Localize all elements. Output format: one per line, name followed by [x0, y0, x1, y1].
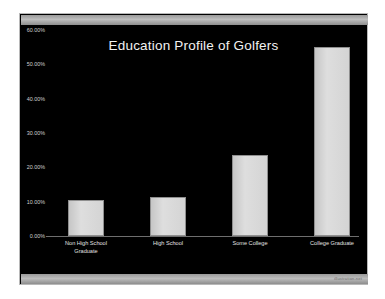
slide-frame: Education Profile of Golfers 60.00% 50.0… [19, 13, 368, 285]
x-tick-label-high-school: High School [125, 240, 211, 248]
x-tick-label-non-high-school-graduate: Non High School Graduate [43, 240, 129, 255]
y-tick-label: 0.00% [20, 233, 45, 239]
y-tick-label: 40.00% [20, 96, 45, 102]
bar-non-high-school-graduate[interactable] [68, 200, 104, 236]
y-tick-label: 60.00% [20, 27, 45, 33]
chart-area: Education Profile of Golfers 60.00% 50.0… [20, 25, 367, 274]
slide-accent-bar-bottom [21, 274, 368, 284]
y-tick-label: 10.00% [20, 199, 45, 205]
bar-college-graduate[interactable] [314, 47, 350, 237]
x-axis: Non High School Graduate High School Som… [46, 238, 359, 270]
y-tick-label: 50.00% [20, 61, 45, 67]
x-tick-label-college-graduate: College Graduate [289, 240, 375, 248]
y-axis: 60.00% 50.00% 40.00% 30.00% 20.00% 10.00… [20, 30, 46, 236]
watermark-text: illustration.net [334, 275, 362, 283]
bars-layer [46, 30, 359, 236]
slide-accent-bar-top [21, 15, 368, 25]
bar-some-college[interactable] [232, 155, 268, 236]
y-tick-label: 20.00% [20, 164, 45, 170]
bar-high-school[interactable] [150, 197, 186, 236]
x-tick-label-some-college: Some College [207, 240, 293, 248]
y-tick-label: 30.00% [20, 130, 45, 136]
x-axis-baseline [46, 236, 359, 237]
